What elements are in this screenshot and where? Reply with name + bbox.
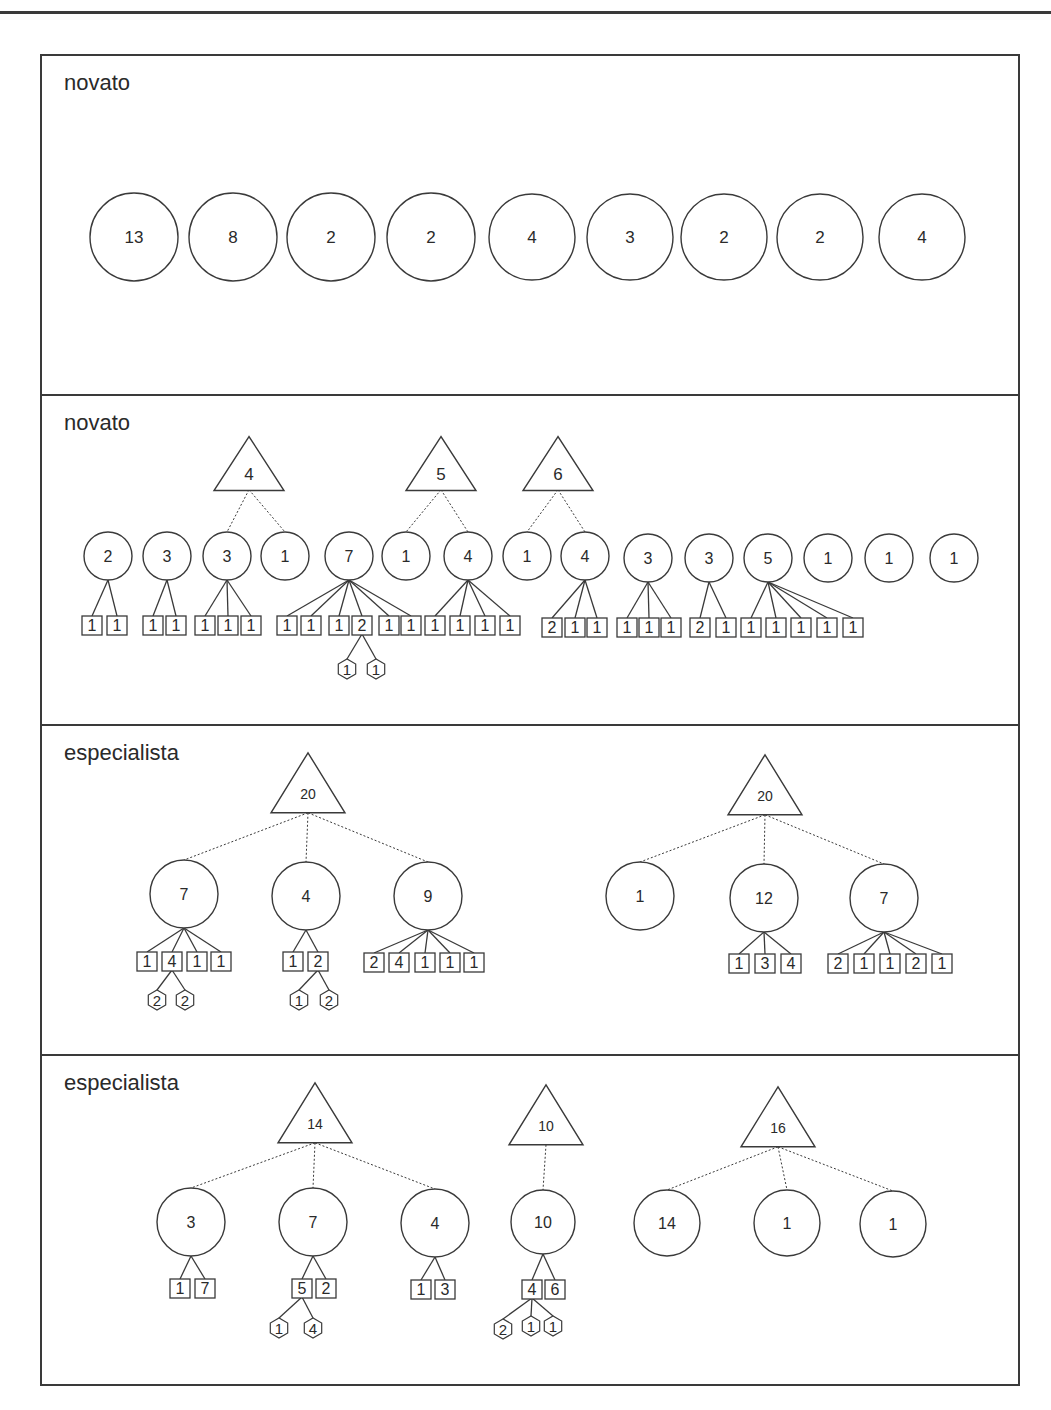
panel-label: especialista [64, 740, 179, 766]
panel-novato-2: novato [42, 394, 1018, 724]
panel-novato-1: novato [42, 56, 1018, 394]
top-page-rule [0, 11, 1051, 14]
figure-frame: novato novato especialista especialista [40, 54, 1020, 1386]
panel-label: especialista [64, 1070, 179, 1096]
panel-especialista-2: especialista [42, 1054, 1018, 1384]
panel-especialista-1: especialista [42, 724, 1018, 1054]
panel-label: novato [64, 410, 130, 436]
panel-label: novato [64, 70, 130, 96]
